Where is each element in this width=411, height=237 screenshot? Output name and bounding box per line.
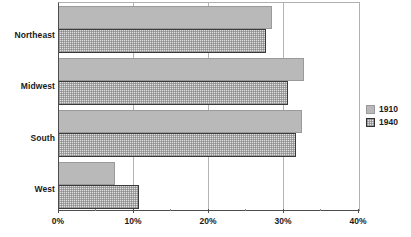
x-tick-label-0: 0%: [38, 216, 78, 226]
legend-item-1940: 1940: [366, 116, 398, 128]
bar-south-1940: [59, 133, 296, 157]
x-tick-major-40: [358, 209, 359, 213]
category-label-northeast: Northeast: [0, 30, 55, 40]
category-label-west: West: [0, 184, 55, 194]
gridline-30: [283, 3, 284, 210]
x-tick-major-30: [283, 209, 284, 213]
bar-west-1940: [59, 185, 139, 209]
x-tick-minor-15: [170, 209, 171, 211]
x-tick-minor-25: [245, 209, 246, 211]
bar-west-1910: [59, 162, 115, 185]
legend-swatch-1910-icon: [366, 105, 375, 114]
x-tick-major-10: [133, 209, 134, 213]
bar-midwest-1910: [59, 58, 304, 81]
bar-northeast-1910: [59, 6, 272, 29]
legend-label-1910: 1910: [379, 105, 398, 114]
x-axis: 0% 10% 20% 30% 40%: [58, 209, 359, 237]
x-tick-major-20: [208, 209, 209, 213]
bar-south-1910: [59, 110, 302, 133]
legend-label-1940: 1940: [379, 118, 398, 127]
legend-item-1910: 1910: [366, 103, 398, 115]
x-tick-minor-5: [95, 209, 96, 211]
category-label-south: South: [0, 133, 55, 143]
x-tick-label-40: 40%: [338, 216, 378, 226]
x-tick-minor-35: [320, 209, 321, 211]
x-tick-label-20: 20%: [188, 216, 228, 226]
bar-northeast-1940: [59, 29, 266, 53]
bar-chart: Northeast Midwest South West 0% 10% 20%: [0, 0, 411, 237]
bar-midwest-1940: [59, 81, 288, 105]
category-label-midwest: Midwest: [0, 81, 55, 91]
x-tick-label-30: 30%: [263, 216, 303, 226]
chart-legend: 1910 1940: [366, 103, 398, 129]
x-tick-major-0: [58, 209, 59, 213]
legend-swatch-1940-icon: [366, 118, 375, 127]
x-tick-label-10: 10%: [113, 216, 153, 226]
plot-area: [58, 2, 360, 211]
